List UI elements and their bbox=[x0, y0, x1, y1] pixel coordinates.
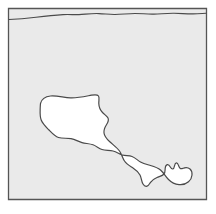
region-map-figure bbox=[0, 0, 216, 214]
figure-root bbox=[0, 0, 216, 214]
